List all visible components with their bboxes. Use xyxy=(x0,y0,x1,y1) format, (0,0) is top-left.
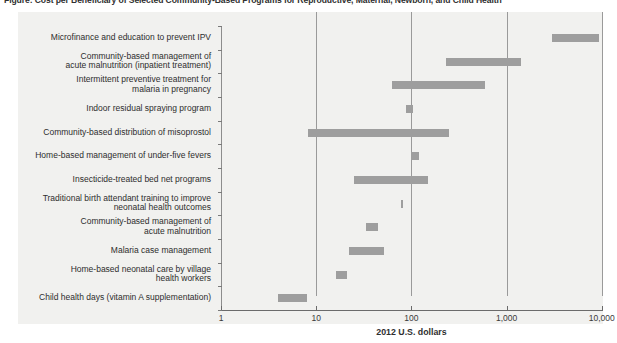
category-label: Community-based distribution of misopros… xyxy=(21,128,211,138)
category-tick xyxy=(218,26,222,27)
category-label: Malaria case management xyxy=(21,246,211,256)
category-label: Child health days (vitamin A supplementa… xyxy=(21,293,211,303)
category-label: Indoor residual spraying program xyxy=(21,104,211,114)
range-bar xyxy=(336,271,347,279)
x-tick-label: 10,000 xyxy=(589,313,615,323)
figure-title: Figure: Cost per Beneficiary of Selected… xyxy=(4,0,613,6)
category-tick xyxy=(218,144,222,145)
range-bar xyxy=(308,129,449,137)
range-bar xyxy=(392,81,485,89)
x-tick-mark xyxy=(411,306,412,311)
category-tick xyxy=(218,121,222,122)
category-tick xyxy=(218,215,222,216)
gridline-10000 xyxy=(602,12,603,296)
x-tick-label: 1,000 xyxy=(496,313,517,323)
category-tick xyxy=(218,310,222,311)
range-bar xyxy=(366,223,379,231)
category-label: Traditional birth attendant training to … xyxy=(21,194,211,213)
range-bar xyxy=(552,34,599,42)
category-tick xyxy=(218,239,222,240)
category-tick xyxy=(218,192,222,193)
range-bar xyxy=(446,58,521,66)
x-tick-label: 1 xyxy=(219,313,224,323)
category-tick xyxy=(218,263,222,264)
range-bar xyxy=(278,294,307,302)
category-label: Intermittent preventive treatment for ma… xyxy=(21,76,211,95)
category-label: Community-based management of acute maln… xyxy=(21,52,211,71)
x-tick-mark xyxy=(316,306,317,311)
range-bar xyxy=(411,152,419,160)
chart-panel: 2012 U.S. dollars 1101001,00010,000Micro… xyxy=(18,12,603,324)
category-label: Insecticide-treated bed net programs xyxy=(21,175,211,185)
category-label: Community-based management of acute maln… xyxy=(21,218,211,237)
category-label: Home-based management of under-five feve… xyxy=(21,151,211,161)
category-tick xyxy=(218,50,222,51)
category-tick xyxy=(218,73,222,74)
x-tick-label: 100 xyxy=(404,313,418,323)
range-bar xyxy=(354,176,428,184)
x-axis-title: 2012 U.S. dollars xyxy=(221,327,602,337)
category-tick xyxy=(218,97,222,98)
figure-container: Figure: Cost per Beneficiary of Selected… xyxy=(0,0,617,343)
x-tick-label: 10 xyxy=(311,313,320,323)
category-tick xyxy=(218,168,222,169)
category-label: Home-based neonatal care by village heal… xyxy=(21,265,211,284)
x-tick-mark xyxy=(602,306,603,311)
range-bar xyxy=(401,200,404,208)
category-tick xyxy=(218,286,222,287)
category-label: Microfinance and education to prevent IP… xyxy=(21,33,211,43)
range-bar xyxy=(406,105,414,113)
range-bar xyxy=(349,247,385,255)
x-tick-mark xyxy=(507,306,508,311)
gridline-1000 xyxy=(507,12,508,296)
gridline-10 xyxy=(316,12,317,296)
